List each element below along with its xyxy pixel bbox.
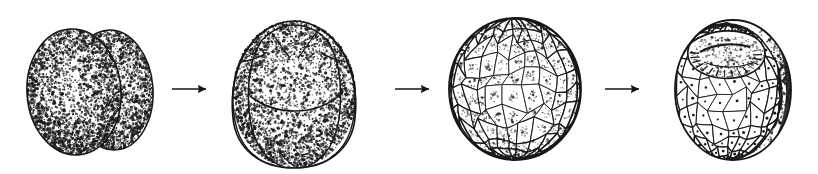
cleavage-sequence-diagram	[0, 0, 818, 174]
stage-4-blastocoel-cutaway	[688, 31, 765, 78]
figure-canvas: Cleavage and blastula formation sequence…	[0, 0, 818, 174]
